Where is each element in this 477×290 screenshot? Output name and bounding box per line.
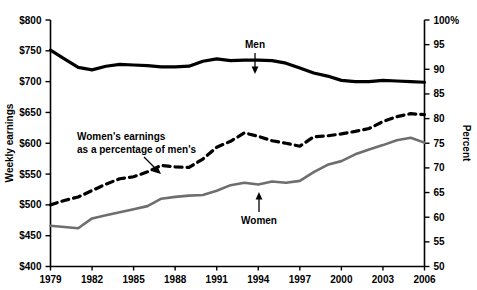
y2-tick-label: 100% [434, 15, 460, 26]
percentage-label-line1: Women's earnings [77, 131, 166, 142]
percentage-label-line2: as a percentage of men's [77, 144, 197, 155]
x-tick-label: 1991 [206, 274, 229, 285]
annotation-men: Men [245, 39, 265, 74]
y2-tick-label: 95 [434, 39, 446, 50]
y-tick-label: $650 [19, 107, 42, 118]
y2-tick-label: 50 [434, 261, 446, 272]
y2-tick-label: 90 [434, 64, 446, 75]
series-line-women-s-earnings-as-a-percentage-of-men-s [51, 114, 425, 205]
left-axis-tick-labels: $400$450$500$550$600$650$700$750$800 [19, 15, 42, 273]
x-tick-label: 1985 [122, 274, 145, 285]
y-tick-label: $700 [19, 76, 42, 87]
y-tick-label: $400 [19, 261, 42, 272]
series-label-women: Women [241, 215, 277, 226]
line-chart: $400$450$500$550$600$650$700$750$800 505… [0, 0, 477, 290]
y2-tick-label: 85 [434, 88, 446, 99]
y2-tick-label: 70 [434, 162, 446, 173]
y-tick-label: $500 [19, 199, 42, 210]
x-tick-label: 2000 [330, 274, 353, 285]
x-tick-label: 1994 [247, 274, 270, 285]
y-tick-label: $550 [19, 169, 42, 180]
annotation-women: Women [241, 192, 277, 226]
y-axis-title: Weekly earnings [4, 103, 15, 182]
x-tick-label: 1997 [289, 274, 312, 285]
y-tick-label: $800 [19, 15, 42, 26]
y2-axis-title: Percent [461, 125, 472, 162]
y2-tick-label: 60 [434, 212, 446, 223]
series-line-men [51, 50, 425, 82]
x-tick-label: 2006 [413, 274, 436, 285]
percentage-arrow-shaft [144, 157, 157, 170]
women-arrow-head [256, 192, 263, 200]
y2-tick-label: 65 [434, 187, 446, 198]
x-tick-label: 1988 [164, 274, 187, 285]
series-label-men: Men [245, 39, 265, 50]
y-tick-label: $750 [19, 45, 42, 56]
y-tick-label: $450 [19, 230, 42, 241]
chart-container: $400$450$500$550$600$650$700$750$800 505… [0, 0, 477, 290]
men-arrow-head [252, 67, 259, 75]
y2-tick-label: 75 [434, 138, 446, 149]
x-tick-label: 1982 [81, 274, 104, 285]
y2-tick-label: 55 [434, 236, 446, 247]
right-axis-tick-labels: 50556065707580859095100% [434, 15, 460, 273]
x-axis-tick-labels: 1979198219851988199119941997200020032006 [39, 274, 436, 285]
x-tick-label: 1979 [39, 274, 62, 285]
y-tick-label: $600 [19, 138, 42, 149]
y2-tick-label: 80 [434, 113, 446, 124]
x-tick-label: 2003 [372, 274, 395, 285]
